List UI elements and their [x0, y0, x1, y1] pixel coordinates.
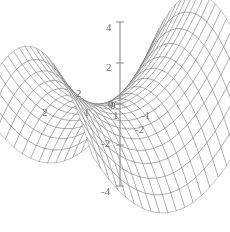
y-tick-neg2: -2	[135, 124, 144, 135]
z-tick-4: 4	[106, 22, 112, 33]
x-tick-2-outer: 2	[42, 107, 48, 118]
surface-plot-figure: 420-2-422101-1-2	[0, 0, 230, 232]
x-tick-1: 1	[84, 107, 90, 118]
y-tick-neg1: -1	[141, 110, 150, 121]
z-tick-neg4: -4	[101, 186, 110, 197]
z-tick-2: 2	[106, 62, 112, 73]
x-tick-2: 2	[76, 88, 82, 99]
z-tick-neg2: -2	[101, 138, 110, 149]
y-tick-1: 1	[113, 110, 119, 121]
